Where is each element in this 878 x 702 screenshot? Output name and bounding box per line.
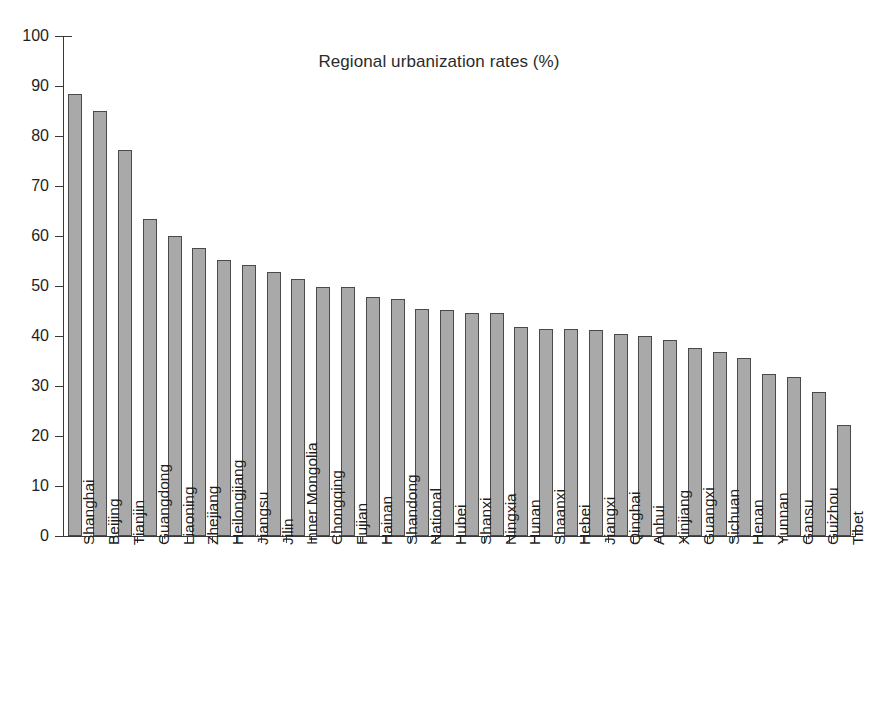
y-axis-tick <box>55 436 63 437</box>
x-axis-label: Zhejiang <box>205 486 221 545</box>
y-axis-tick-label: 40 <box>5 328 49 344</box>
x-axis-label: Liaoning <box>181 486 197 545</box>
x-axis-label: Chongqing <box>329 470 345 545</box>
x-axis-label: Shanghai <box>81 479 97 545</box>
x-axis-label: Jiangsu <box>255 492 271 545</box>
y-axis-tick-label: 90 <box>5 78 49 94</box>
y-axis-tick <box>55 186 63 187</box>
x-axis-label: Qinghai <box>627 492 643 545</box>
x-axis-label: Inner Mongolia <box>304 442 320 545</box>
bar <box>93 111 107 536</box>
x-axis-label: Jiangxi <box>602 497 618 545</box>
y-axis-tick-label: 70 <box>5 178 49 194</box>
x-axis-label: Hubei <box>453 505 469 546</box>
y-axis-tick-label: 80 <box>5 128 49 144</box>
x-axis-label: Beijing <box>106 498 122 545</box>
y-axis-tick <box>55 386 63 387</box>
x-axis-label: Guangxi <box>701 487 717 545</box>
y-axis-tick <box>55 36 63 37</box>
x-axis-label: Hainan <box>379 496 395 545</box>
bars-layer <box>63 36 856 536</box>
y-axis-tick-label: 10 <box>5 478 49 494</box>
bar <box>68 94 82 536</box>
y-axis-tick-label: 0 <box>5 528 49 544</box>
y-axis-tick-label: 30 <box>5 378 49 394</box>
y-axis-tick <box>55 286 63 287</box>
x-axis-label: Jilin <box>280 518 296 545</box>
y-axis-tick-label: 60 <box>5 228 49 244</box>
x-axis-label: Gansu <box>800 499 816 545</box>
x-axis-label: Heilongjiang <box>230 460 246 545</box>
y-axis-tick-label: 100 <box>5 28 49 44</box>
x-axis-label: Tibet <box>850 511 866 545</box>
y-axis-tick <box>55 486 63 487</box>
x-axis-label: Fujian <box>354 503 370 545</box>
x-axis-label: Guizhou <box>825 487 841 545</box>
y-axis-tick <box>55 536 63 537</box>
x-axis-label: Anhui <box>651 505 667 545</box>
x-axis-label: Shanxi <box>478 498 494 545</box>
x-axis-label: National <box>428 488 444 545</box>
y-axis-tick <box>55 336 63 337</box>
x-axis-label: Sichuan <box>726 489 742 545</box>
chart-figure: Regional urbanization rates (%) 01020304… <box>0 0 878 702</box>
y-axis-tick-label: 20 <box>5 428 49 444</box>
x-axis-label: Xinjiang <box>676 490 692 545</box>
x-axis-label: Yunnan <box>775 492 791 545</box>
y-axis-tick <box>55 136 63 137</box>
bar <box>118 150 132 537</box>
x-axis-label: Shaanxi <box>552 489 568 545</box>
x-axis-label: Guangdong <box>156 464 172 545</box>
x-axis-labels: ShanghaiBeijingTianjinGuangdongLiaoningZ… <box>63 545 856 695</box>
x-axis-label: Hebei <box>577 505 593 546</box>
x-axis-label: Tianjin <box>131 500 147 545</box>
x-axis-label: Henan <box>750 499 766 545</box>
x-axis-label: Ningxia <box>503 493 519 545</box>
x-axis-label: Shandong <box>404 474 420 545</box>
x-axis-label: Hunan <box>527 499 543 545</box>
y-axis-tick-label: 50 <box>5 278 49 294</box>
y-axis-tick <box>55 236 63 237</box>
y-axis-tick <box>55 86 63 87</box>
